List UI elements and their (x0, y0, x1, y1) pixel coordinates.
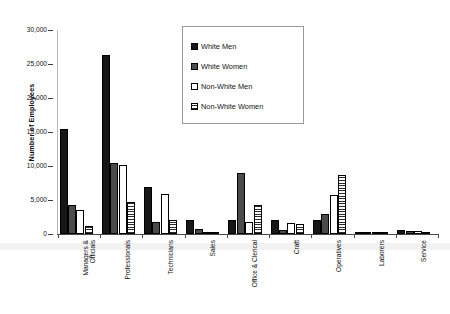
bar-group-bars (397, 30, 430, 234)
bar (144, 187, 152, 234)
bar (110, 163, 118, 234)
bar (68, 205, 76, 234)
x-axis-tick-mark (311, 234, 312, 238)
bar (296, 224, 304, 234)
bar (76, 210, 84, 234)
bar (152, 222, 160, 234)
y-axis-tick-mark (48, 30, 53, 31)
legend-item: White Women (191, 56, 303, 76)
x-axis-category-label: Managers &Officials (82, 240, 97, 276)
bar (271, 220, 279, 234)
y-axis-tick-label: 25,000 (3, 60, 47, 67)
bar (119, 165, 127, 234)
bar (406, 231, 414, 234)
x-axis-tick-mark (100, 234, 101, 238)
legend-swatch-icon (191, 43, 198, 50)
bar (321, 214, 329, 234)
y-axis-tick-label: 15,000 (3, 128, 47, 135)
bar (203, 232, 211, 234)
x-axis-category-label: Operatives (335, 240, 342, 272)
bar (237, 173, 245, 234)
bar (372, 232, 380, 234)
y-axis-tick-label: 5,000 (3, 196, 47, 203)
bar (245, 222, 253, 234)
x-axis-category-label-line: Operatives (335, 240, 342, 272)
x-axis-category-label-line: Office & Clerical (251, 240, 258, 287)
y-axis-tick-label: 10,000 (3, 162, 47, 169)
bar (330, 195, 338, 234)
bar (287, 223, 295, 234)
legend-swatch-icon (191, 83, 198, 90)
legend-swatch-icon (191, 63, 198, 70)
bar (254, 205, 262, 234)
bar-group-bars (60, 30, 93, 234)
x-axis-line (57, 234, 439, 235)
x-axis-category-label-line: Sales (209, 240, 216, 257)
bar (85, 226, 93, 234)
x-axis-tick-mark (58, 234, 59, 238)
x-axis-category-label: Professionals (124, 240, 131, 280)
x-axis-tick-mark (354, 234, 355, 238)
y-axis-tick-label: 20,000 (3, 94, 47, 101)
bar-group-bars (102, 30, 135, 234)
y-axis-tick-labels: 30,00025,00020,00015,00010,0005,0000 (0, 0, 47, 314)
y-axis-tick-label: 30,000 (3, 26, 47, 33)
bar (338, 175, 346, 234)
employment-bar-chart: Number of Employees 30,00025,00020,00015… (0, 0, 450, 314)
bar-group-bars (144, 30, 177, 234)
x-axis-tick-mark (185, 234, 186, 238)
bar (195, 229, 203, 234)
y-axis-tick-mark (48, 132, 53, 133)
bar (60, 129, 68, 234)
x-axis-tick-mark (269, 234, 270, 238)
bar (228, 220, 236, 234)
y-axis-tick-mark (48, 98, 53, 99)
bar (127, 202, 135, 234)
bar-group-bars (313, 30, 346, 234)
legend-item-label: White Women (201, 62, 247, 71)
legend-item-label: Non-White Women (201, 102, 263, 111)
y-axis-tick-mark (48, 200, 53, 201)
legend-item: White Men (191, 36, 303, 56)
legend-swatch-icon (191, 103, 198, 110)
bar (161, 194, 169, 234)
x-axis-category-label-line: Professionals (124, 240, 131, 280)
x-axis-category-label-line: Managers & (82, 240, 89, 276)
bar (422, 232, 430, 234)
bar (397, 230, 405, 234)
x-axis-category-label-line: Laborers (378, 240, 385, 266)
y-axis-tick-mark (48, 234, 53, 235)
x-axis-tick-mark (438, 234, 439, 238)
x-axis-category-label-line: Officials (90, 240, 97, 276)
x-axis-category-label: Office & Clerical (251, 240, 258, 287)
y-axis-tick-mark (48, 166, 53, 167)
x-axis-tick-mark (142, 234, 143, 238)
x-axis-tick-mark (227, 234, 228, 238)
legend-item: Non-White Women (191, 96, 303, 116)
bar (102, 55, 110, 234)
legend-item-label: White Men (201, 42, 236, 51)
x-axis-category-label-line: Technicians (167, 240, 174, 274)
bar (380, 232, 388, 234)
x-axis-category-label: Service (420, 240, 427, 262)
bar (186, 220, 194, 234)
bar (169, 220, 177, 234)
bar (211, 232, 219, 234)
legend-item-label: Non-White Men (201, 82, 252, 91)
bar (279, 230, 287, 234)
y-axis-tick-label: 0 (3, 230, 47, 237)
bar (363, 232, 371, 234)
bar (414, 231, 422, 234)
y-axis-tick-mark (48, 64, 53, 65)
x-axis-category-label-line: Craft (293, 240, 300, 254)
x-axis-category-label-line: Service (420, 240, 427, 262)
x-axis-category-label: Sales (209, 240, 216, 257)
chart-legend: White MenWhite WomenNon-White MenNon-Whi… (182, 26, 304, 124)
x-axis-category-label: Laborers (378, 240, 385, 266)
bar-group-bars (355, 30, 388, 234)
x-axis-tick-mark (396, 234, 397, 238)
x-axis-category-label: Technicians (167, 240, 174, 274)
legend-item: Non-White Men (191, 76, 303, 96)
bar (313, 220, 321, 234)
x-axis-category-label: Craft (293, 240, 300, 254)
